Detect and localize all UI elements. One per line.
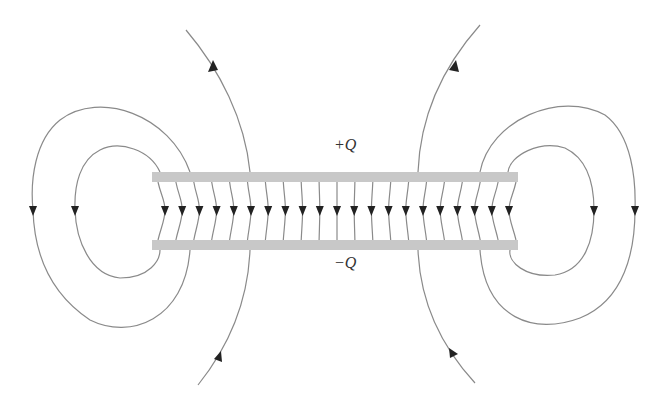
right-inner-loop <box>508 146 594 276</box>
arrow-down-icon <box>230 206 238 216</box>
arrow-down-icon <box>161 206 169 216</box>
arrow-down-icon <box>195 206 203 216</box>
arrow-down-icon <box>367 206 375 216</box>
arrow-down-icon <box>350 206 358 216</box>
left-outer-loop <box>32 107 190 327</box>
lower-right-line <box>418 250 475 383</box>
bottom-plate <box>152 240 518 250</box>
top-plate <box>152 172 518 182</box>
upper-left-line <box>186 30 250 172</box>
open-field-lines <box>186 25 480 385</box>
upper-right-line <box>418 25 480 172</box>
arrow-down-icon <box>247 206 255 216</box>
arrow-up-icon <box>449 60 459 72</box>
bottom-plate-label: −Q <box>334 254 356 272</box>
arrow-down-icon <box>333 206 341 216</box>
arrow-down-icon <box>29 206 37 216</box>
top-plate-label: +Q <box>334 136 356 154</box>
arrow-down-icon <box>71 206 79 216</box>
arrow-down-icon <box>419 206 427 216</box>
arrow-down-icon <box>402 206 410 216</box>
lower-left-line <box>198 250 250 385</box>
left-inner-loop <box>75 146 160 278</box>
arrow-down-icon <box>385 206 393 216</box>
arrow-down-icon <box>316 206 324 216</box>
capacitor-field-diagram <box>0 0 666 401</box>
arrow-down-icon <box>505 206 513 216</box>
arrow-down-icon <box>281 206 289 216</box>
arrow-down-icon <box>471 206 479 216</box>
arrow-down-icon <box>590 206 598 216</box>
arrow-down-icon <box>488 206 496 216</box>
arrow-down-icon <box>436 206 444 216</box>
arrow-down-icon <box>631 206 639 216</box>
arrow-down-icon <box>299 206 307 216</box>
interior-field-lines <box>158 182 516 240</box>
arrow-down-icon <box>264 206 272 216</box>
right-outer-loop <box>480 106 635 324</box>
arrow-down-icon <box>453 206 461 216</box>
arrow-down-icon <box>178 206 186 216</box>
arrow-down-icon <box>213 206 221 216</box>
